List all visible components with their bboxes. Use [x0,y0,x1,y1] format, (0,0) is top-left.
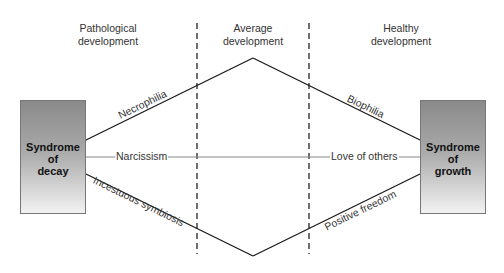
label-narcissism: Narcissism [115,150,168,162]
header-healthy: Healthy development [346,22,456,48]
edge-necrophilia [86,58,253,140]
header-pathological: Pathological development [53,22,163,48]
header-average: Average development [198,22,308,48]
label-love-of-others: Love of others [330,150,399,162]
box-syndrome-of-growth: Syndrome of growth [420,100,486,214]
box-label-decay: Syndrome of decay [26,141,80,177]
box-syndrome-of-decay: Syndrome of decay [20,100,86,214]
edge-biophilia [253,58,420,140]
box-label-growth: Syndrome of growth [426,141,480,177]
